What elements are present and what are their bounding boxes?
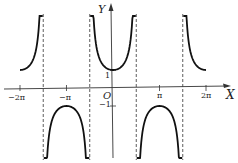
x-axis-label: X: [225, 88, 235, 102]
tick-label-pi: π: [157, 91, 162, 100]
tick-label-neg-2pi: −2π: [8, 93, 25, 102]
tick-label-2pi: 2π: [201, 91, 211, 100]
secant-graph: X Y O −2π −π π 2π 1 −1: [0, 0, 238, 163]
secant-branch: [20, 16, 43, 70]
tick-label-neg-one: −1: [99, 100, 111, 109]
y-axis: [111, 7, 113, 158]
y-axis-arrow-icon: [109, 3, 114, 11]
secant-branch: [44, 106, 90, 158]
y-axis-label: Y: [98, 3, 107, 16]
x-axis: [4, 86, 228, 89]
secant-branch: [183, 16, 206, 70]
secant-branch: [137, 106, 183, 158]
tick-label-one: 1: [105, 71, 110, 80]
secant-branch: [90, 16, 136, 70]
tick-label-neg-pi: −π: [59, 93, 71, 102]
